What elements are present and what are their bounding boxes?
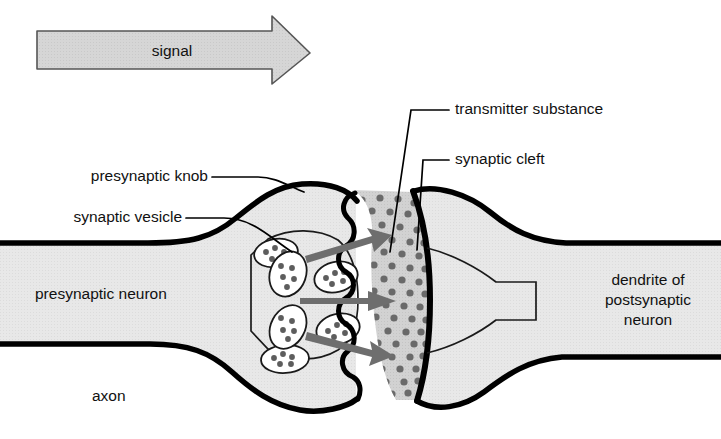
label-dendrite-line3: neuron: [624, 311, 672, 328]
label-presynaptic-neuron: presynaptic neuron: [35, 285, 167, 302]
label-transmitter-substance: transmitter substance: [455, 100, 603, 117]
label-synaptic-cleft: synaptic cleft: [455, 150, 545, 167]
signal-arrow: signal: [37, 16, 310, 84]
label-dendrite-line2: postsynaptic: [605, 291, 691, 308]
synapse-diagram-figure: signal: [0, 0, 721, 439]
label-dendrite-line1: dendrite of: [611, 271, 685, 288]
label-presynaptic-knob: presynaptic knob: [91, 167, 208, 184]
label-synaptic-vesicle: synaptic vesicle: [73, 208, 182, 225]
synapse-diagram-canvas: signal: [0, 0, 721, 439]
release-arrow-shaft: [300, 298, 372, 304]
signal-arrow-label: signal: [152, 42, 193, 59]
label-axon: axon: [92, 387, 126, 404]
